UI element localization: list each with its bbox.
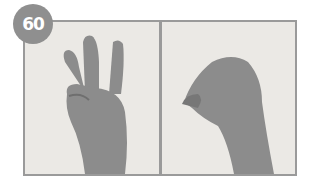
pinched-fingers-hand-icon [162,22,295,174]
photo-pinched-fingers [162,22,295,174]
three-fingers-hand-icon [25,22,159,174]
number-badge: 60 [13,4,53,44]
photo-three-fingers [25,22,159,174]
badge-number: 60 [22,14,44,34]
